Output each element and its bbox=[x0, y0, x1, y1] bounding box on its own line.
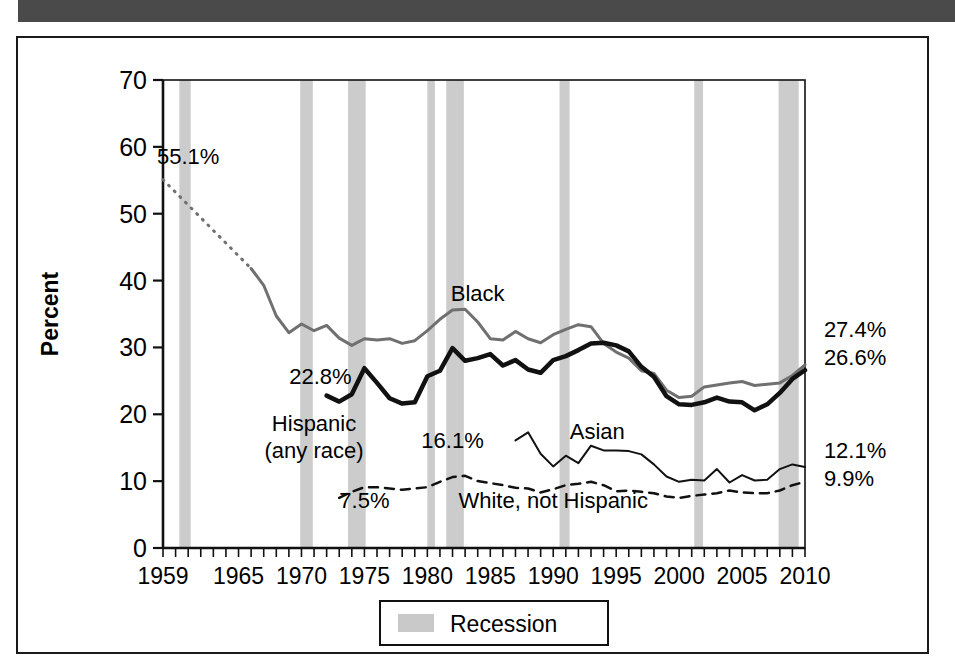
chart-annotation: 7.5% bbox=[339, 488, 389, 513]
x-tick-label: 2010 bbox=[779, 563, 830, 589]
x-tick-label: 2005 bbox=[716, 563, 767, 589]
chart-annotation: 55.1% bbox=[157, 144, 219, 169]
x-tick-label: 1980 bbox=[402, 563, 453, 589]
chart-annotation: 22.8% bbox=[289, 364, 351, 389]
x-tick-label: 1985 bbox=[465, 563, 516, 589]
recession-band bbox=[427, 80, 435, 548]
x-tick-label: 1975 bbox=[339, 563, 390, 589]
chart-annotation: White, not Hispanic bbox=[458, 488, 648, 513]
y-tick-label: 30 bbox=[119, 333, 147, 361]
chart-annotation: Black bbox=[451, 281, 506, 306]
x-tick-label: 1990 bbox=[528, 563, 579, 589]
recession-band bbox=[694, 80, 703, 548]
x-tick-label: 1995 bbox=[591, 563, 642, 589]
legend-swatch-recession bbox=[398, 614, 434, 632]
annotations-group: 55.1%22.8%BlackHispanic(any race)16.1%As… bbox=[157, 144, 886, 513]
y-tick-label: 70 bbox=[119, 66, 147, 94]
chart-annotation: Asian bbox=[570, 419, 625, 444]
x-tick-label: 1965 bbox=[213, 563, 264, 589]
y-tick-label: 40 bbox=[119, 267, 147, 295]
legend-label-recession: Recession bbox=[450, 611, 557, 637]
recession-band bbox=[560, 80, 570, 548]
y-tick-label: 10 bbox=[119, 467, 147, 495]
poverty-rate-chart: 010203040506070Percent195919651970197519… bbox=[0, 0, 955, 664]
chart-annotation: 9.9% bbox=[824, 466, 874, 491]
series-lines-group bbox=[163, 180, 805, 498]
recession-band bbox=[779, 80, 799, 548]
x-tick-label: 2000 bbox=[654, 563, 705, 589]
series-line-lead-black bbox=[163, 180, 251, 269]
chart-annotation: 26.6% bbox=[824, 345, 886, 370]
recession-band bbox=[348, 80, 366, 548]
recession-band bbox=[300, 80, 313, 548]
series-line-asian bbox=[516, 432, 806, 482]
y-tick-label: 50 bbox=[119, 200, 147, 228]
x-tick-label: 1959 bbox=[137, 563, 188, 589]
chart-annotation: 16.1% bbox=[421, 428, 483, 453]
chart-annotation: 27.4% bbox=[824, 317, 886, 342]
chart-annotation: 12.1% bbox=[824, 438, 886, 463]
y-axis-title: Percent bbox=[37, 271, 63, 356]
chart-legend: Recession bbox=[380, 601, 608, 645]
y-tick-label: 0 bbox=[133, 534, 147, 562]
y-tick-label: 60 bbox=[119, 133, 147, 161]
x-tick-label: 1970 bbox=[276, 563, 327, 589]
y-tick-label: 20 bbox=[119, 400, 147, 428]
